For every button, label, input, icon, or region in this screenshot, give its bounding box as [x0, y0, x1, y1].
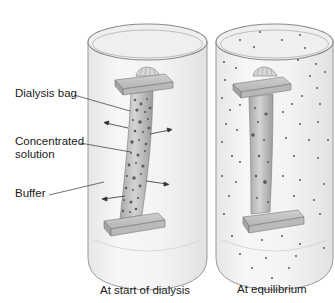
- label-buffer: Buffer: [15, 187, 45, 200]
- label-dialysis-bag: Dialysis bag: [15, 87, 77, 100]
- label-concentrated-line1: Concentrated: [15, 135, 84, 148]
- caption-start: At start of dialysis: [100, 284, 190, 296]
- dialysis-diagram: Dialysis bag Concentrated solution Buffe…: [0, 0, 335, 303]
- caption-equilibrium: At equilibrium: [237, 283, 307, 295]
- label-concentrated-line2: solution: [15, 148, 55, 161]
